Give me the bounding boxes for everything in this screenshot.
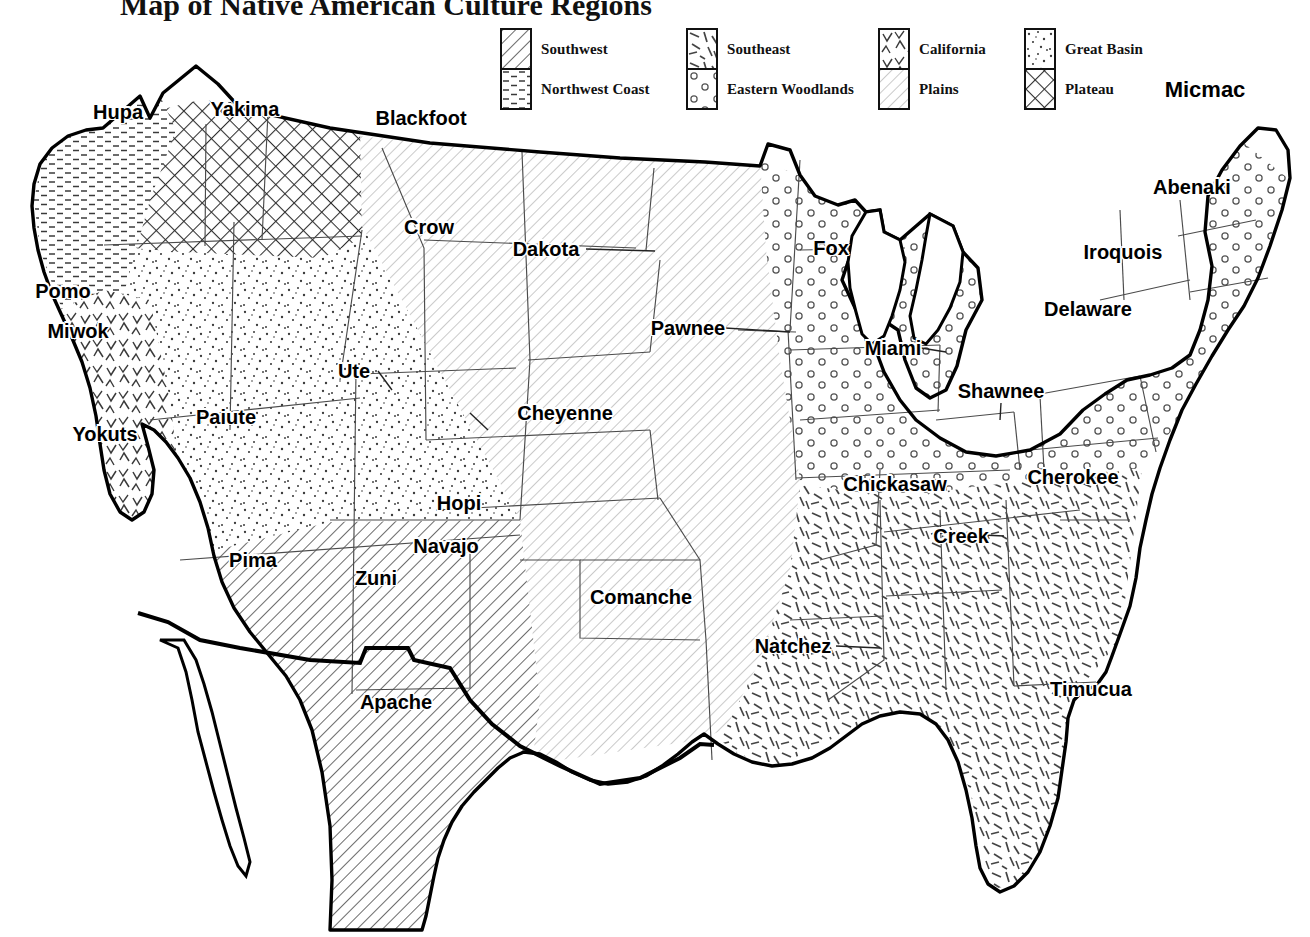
legend-swatch-northwest-coast xyxy=(500,68,532,110)
legend-item-plateau[interactable]: Plateau xyxy=(1024,68,1114,110)
legend-item-plains[interactable]: Plains xyxy=(878,68,959,110)
page-title: Map of Native American Culture Regions xyxy=(120,0,652,22)
legend-label-plains: Plains xyxy=(919,81,959,98)
legend-item-great-basin[interactable]: Great Basin xyxy=(1024,28,1143,70)
legend-label-plateau: Plateau xyxy=(1065,81,1114,98)
tribe-label-blackfoot: Blackfoot xyxy=(375,107,466,130)
legend-item-southeast[interactable]: Southeast xyxy=(686,28,790,70)
tribe-label-miami: Miami xyxy=(865,337,922,360)
legend-swatch-eastern-woodlands xyxy=(686,68,718,110)
tribe-label-pawnee: Pawnee xyxy=(651,317,725,340)
legend-label-southeast: Southeast xyxy=(727,41,790,58)
legend-swatch-southwest xyxy=(500,28,532,70)
legend-swatch-southeast xyxy=(686,28,718,70)
tribe-label-delaware: Delaware xyxy=(1044,298,1132,321)
tribe-label-abenaki: Abenaki xyxy=(1153,176,1231,199)
tribe-label-pomo: Pomo xyxy=(35,280,91,303)
tribe-label-miwok: Miwok xyxy=(47,320,108,343)
legend-swatch-great-basin xyxy=(1024,28,1056,70)
tribe-label-creek: Creek xyxy=(933,525,989,548)
tribe-label-fox: Fox xyxy=(813,237,849,260)
tribe-label-yakima: Yakima xyxy=(211,98,280,121)
tribe-label-pima: Pima xyxy=(229,549,277,572)
tribe-label-zuni: Zuni xyxy=(355,567,397,590)
legend-swatch-plains xyxy=(878,68,910,110)
legend-item-northwest-coast[interactable]: Northwest Coast xyxy=(500,68,650,110)
tribe-label-shawnee: Shawnee xyxy=(958,380,1045,403)
tribe-label-ute: Ute xyxy=(338,360,370,383)
legend-swatch-california xyxy=(878,28,910,70)
legend: SouthwestNorthwest CoastSoutheastEastern… xyxy=(500,28,1190,106)
tribe-label-dakota: Dakota xyxy=(513,238,580,261)
legend-label-northwest-coast: Northwest Coast xyxy=(541,81,650,98)
tribe-label-paiute: Paiute xyxy=(196,406,256,429)
tribe-label-hopi: Hopi xyxy=(437,492,481,515)
legend-label-southwest: Southwest xyxy=(541,41,608,58)
legend-item-eastern-woodlands[interactable]: Eastern Woodlands xyxy=(686,68,854,110)
tribe-label-timucua: Timucua xyxy=(1050,678,1132,701)
tribe-label-cheyenne: Cheyenne xyxy=(517,402,613,425)
tribe-label-natchez: Natchez xyxy=(755,635,832,658)
tribe-label-iroquois: Iroquois xyxy=(1084,241,1163,264)
tribe-label-cherokee: Cherokee xyxy=(1027,466,1118,489)
tribe-label-hupa: Hupa xyxy=(93,101,143,124)
tribe-label-comanche: Comanche xyxy=(590,586,692,609)
tribe-label-navajo: Navajo xyxy=(413,535,479,558)
legend-label-great-basin: Great Basin xyxy=(1065,41,1143,58)
tribe-label-micmac: Micmac xyxy=(1165,77,1246,103)
tribe-label-crow: Crow xyxy=(404,216,454,239)
tribe-label-yokuts: Yokuts xyxy=(72,423,137,446)
tribe-label-chickasaw: Chickasaw xyxy=(843,473,946,496)
legend-label-eastern-woodlands: Eastern Woodlands xyxy=(727,81,854,98)
tribe-label-apache: Apache xyxy=(360,691,432,714)
legend-item-southwest[interactable]: Southwest xyxy=(500,28,608,70)
map-figure: Map of Native American Culture Regions S… xyxy=(0,0,1310,937)
legend-label-california: California xyxy=(919,41,986,58)
legend-item-california[interactable]: California xyxy=(878,28,986,70)
legend-swatch-plateau xyxy=(1024,68,1056,110)
